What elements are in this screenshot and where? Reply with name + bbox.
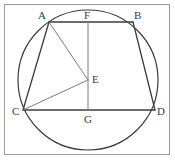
segment-AE: [49, 22, 88, 80]
segment-AC: [23, 22, 49, 110]
point-label-c: C: [12, 106, 19, 117]
point-label-b: B: [134, 10, 141, 21]
figure-border: [5, 5, 170, 155]
point-label-d: D: [157, 106, 165, 117]
point-label-a: A: [38, 10, 46, 21]
segment-CE: [23, 80, 88, 110]
segment-group: [23, 22, 155, 110]
figure-svg: [0, 0, 175, 162]
segment-BD: [133, 22, 155, 110]
point-label-f: F: [84, 10, 90, 21]
point-label-g: G: [84, 114, 92, 125]
geometry-figure-canvas: ABCDEFG: [0, 0, 175, 162]
point-label-e: E: [92, 74, 99, 85]
